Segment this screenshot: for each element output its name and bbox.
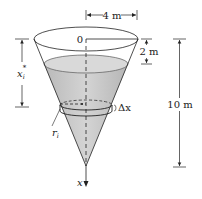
- label-top-radius: 4 m: [102, 10, 122, 21]
- slice-thickness-brace: [114, 105, 116, 111]
- conical-tank-diagram: 4 m 0 2 m 10 m xi* Δx ri x: [0, 0, 202, 199]
- label-axis-x: x: [77, 177, 83, 188]
- dim-4m-arrow-left: [87, 13, 91, 17]
- slice-radius-arrowhead: [81, 103, 83, 105]
- liquid-body: [44, 64, 128, 166]
- dim-xi-arrow-top: [20, 40, 24, 44]
- label-slice-radius: ri: [52, 127, 59, 140]
- x-axis-arrowhead: [84, 181, 89, 187]
- dim-10m-arrow-bottom: [178, 163, 182, 167]
- dim-10m-arrow-top: [178, 40, 182, 44]
- dim-2m-arrow-bottom: [145, 60, 149, 64]
- dim-xi-arrow-bottom: [20, 103, 24, 107]
- dim-4m-arrow-right: [132, 13, 136, 17]
- label-origin: 0: [77, 34, 83, 45]
- label-slice-depth: xi*: [17, 64, 27, 81]
- label-empty-depth: 2 m: [139, 46, 159, 57]
- label-slice-thickness: Δx: [118, 102, 131, 113]
- label-total-height: 10 m: [167, 99, 193, 110]
- dim-2m-arrow-top: [145, 40, 149, 44]
- slice-radius-leader: [52, 109, 60, 126]
